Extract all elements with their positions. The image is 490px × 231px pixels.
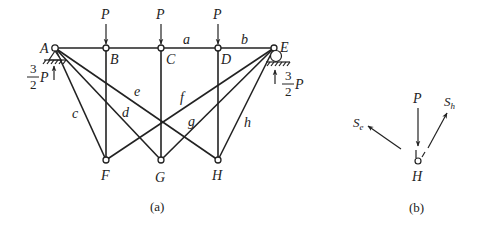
force-P-label: P <box>412 91 422 106</box>
reaction-right-num: 3 <box>285 68 292 83</box>
node-label-H: H <box>211 168 223 183</box>
member-f <box>106 48 274 160</box>
member-label-f: f <box>180 90 186 105</box>
node-label-C: C <box>166 52 176 67</box>
joint-H-free-body <box>415 158 421 164</box>
load-label-C: P <box>155 7 165 22</box>
force-Sh-arrow-icon <box>428 113 447 148</box>
joint-H <box>215 157 221 163</box>
reaction-right-sym: P <box>294 77 304 92</box>
node-label-F: F <box>100 168 110 183</box>
node-label-G: G <box>155 170 165 185</box>
load-label-B: P <box>100 7 110 22</box>
node-label-A: A <box>39 41 49 56</box>
reaction-right: 3 2 P <box>282 68 304 99</box>
member-label-d: d <box>122 105 130 120</box>
member-d <box>55 48 161 160</box>
member-label-e: e <box>134 84 140 99</box>
joint-F <box>103 157 109 163</box>
figure-b <box>368 108 447 164</box>
truss-figure: P P P A B C D E F G H a b c d e f g h 3 … <box>0 0 490 231</box>
reaction-left: 3 2 P <box>27 61 49 92</box>
member-label-g: g <box>188 114 195 129</box>
reaction-left-den: 2 <box>30 77 37 92</box>
member-label-a: a <box>183 32 190 47</box>
joint-G <box>158 157 164 163</box>
node-label-E: E <box>279 40 289 55</box>
figure-a <box>55 48 274 160</box>
member-label-c: c <box>72 106 79 121</box>
reaction-left-sym: P <box>39 70 49 85</box>
force-Se-label: Se <box>353 115 364 132</box>
joints <box>52 45 277 163</box>
joint-C <box>158 45 164 51</box>
member-e <box>55 48 218 160</box>
caption-a: (a) <box>150 199 164 214</box>
load-label-D: P <box>212 7 222 22</box>
reaction-right-den: 2 <box>285 84 292 99</box>
force-Se-arrow-icon <box>368 126 401 149</box>
member-label-h: h <box>244 115 251 130</box>
reaction-left-num: 3 <box>30 61 37 76</box>
node-label-B: B <box>110 52 119 67</box>
node-label-H-b: H <box>411 169 423 184</box>
force-Sh-label: Sh <box>444 94 456 111</box>
joint-B <box>103 45 109 51</box>
node-label-D: D <box>220 52 231 67</box>
caption-b: (b) <box>409 200 424 215</box>
joint-D <box>215 45 221 51</box>
member-label-b: b <box>241 32 248 47</box>
